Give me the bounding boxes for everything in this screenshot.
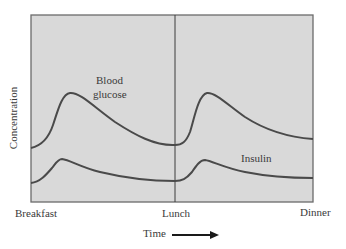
plot-area <box>31 15 313 202</box>
y-axis-label: Concentration <box>7 83 19 153</box>
glucose-label-line1: Blood <box>96 74 123 86</box>
insulin-label: Insulin <box>241 152 272 164</box>
x-tick-breakfast: Breakfast <box>15 207 57 219</box>
glucose-label-line2: glucose <box>93 88 127 100</box>
x-axis-label: Time <box>143 227 166 239</box>
time-arrow-icon <box>172 230 222 240</box>
x-tick-dinner: Dinner <box>300 206 331 218</box>
x-tick-lunch: Lunch <box>162 207 190 219</box>
